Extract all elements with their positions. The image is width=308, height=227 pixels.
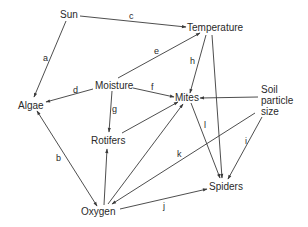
soil-label-line-1: Soil [261, 84, 293, 95]
edge-oxygen-mites [108, 104, 183, 204]
edge-d-moisture-algae [46, 89, 93, 102]
edge-label-l: l [204, 120, 206, 130]
edge-b-algae-oxygen [37, 111, 97, 206]
edge-label-d: d [73, 85, 78, 95]
edge-soil-mites [200, 97, 258, 98]
edge-label-j: j [163, 201, 165, 211]
node-mites: Mites [175, 92, 199, 103]
edge-temperature-spiders [212, 35, 222, 178]
edge-label-k: k [177, 149, 182, 159]
edge-label-b: b [56, 153, 61, 163]
node-moisture: Moisture [95, 80, 133, 91]
soil-label-line-2: particle [261, 95, 293, 106]
node-spiders: Spiders [209, 181, 243, 192]
edge-label-f: f [151, 82, 154, 92]
edge-rotifers-mites [122, 102, 178, 133]
edge-oxygen-rotifers [104, 149, 107, 205]
node-oxygen: Oxygen [81, 206, 115, 217]
edge-label-c: c [129, 11, 134, 21]
edge-label-a: a [43, 53, 48, 63]
soil-label-line-3: size [261, 106, 293, 117]
node-soil-particle-size: Soil particle size [261, 84, 293, 117]
edge-label-i: i [245, 136, 247, 146]
node-algae: Algae [18, 100, 44, 111]
edge-a-sun-algae [34, 21, 66, 97]
node-sun: Sun [60, 9, 78, 20]
node-temperature: Temperature [187, 22, 243, 33]
edge-label-g: g [112, 104, 117, 114]
edge-label-e: e [154, 46, 159, 56]
edge-l-mites-spiders [191, 103, 220, 178]
edge-label-h: h [190, 56, 195, 66]
node-rotifers: Rotifers [91, 135, 125, 146]
edge-i-soil-spiders [228, 117, 262, 179]
